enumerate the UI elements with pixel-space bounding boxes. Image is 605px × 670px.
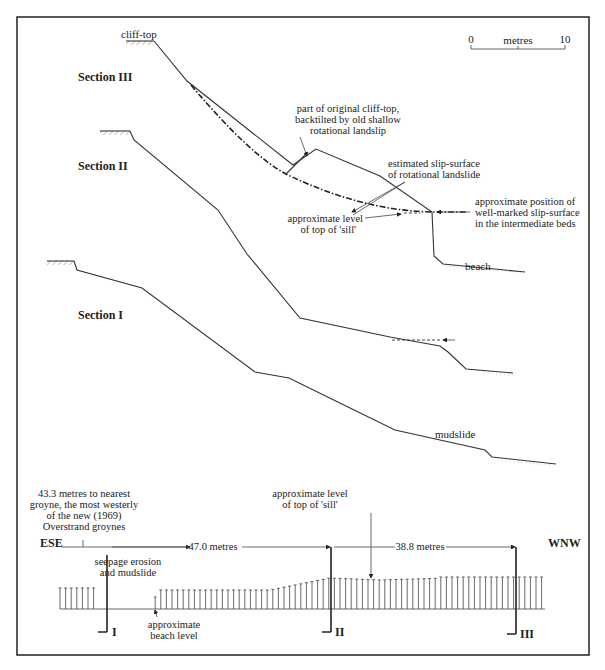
section-i-profile: Section I mudslide [47, 261, 556, 465]
distance-38-label: 38.8 metres [396, 541, 445, 552]
cliff-top-hatch [126, 41, 154, 45]
cliff-top-label: cliff-top [121, 28, 157, 40]
section-iii-profile: cliff-top Section III beach [78, 28, 525, 272]
section-iii-marker: III [520, 627, 534, 641]
svg-text:groyne, the most westerly: groyne, the most westerly [30, 499, 139, 510]
svg-text:approximate: approximate [148, 619, 201, 630]
svg-text:43.3 metres to nearest: 43.3 metres to nearest [38, 488, 130, 499]
svg-text:beach level: beach level [150, 630, 198, 641]
section-ii-marker: II [335, 625, 345, 639]
section-ii-label: Section II [78, 159, 128, 173]
svg-text:approximate level: approximate level [272, 488, 348, 499]
section-i-marker: I [112, 625, 117, 639]
svg-text:and mudslide: and mudslide [100, 567, 157, 578]
annotation-backtilted: part of original cliff-top, backtilted b… [295, 103, 401, 156]
section-i-label: Section I [78, 308, 123, 322]
svg-text:of rotational landslide: of rotational landslide [388, 169, 480, 180]
ese-direction-label: ESE [40, 536, 63, 550]
section-iii-label: Section III [78, 70, 133, 84]
svg-text:part of original cliff-top,: part of original cliff-top, [297, 103, 399, 114]
scale-start: 0 [468, 33, 474, 45]
scale-bar: 0 metres 10 [468, 33, 571, 49]
svg-text:of top of 'sill': of top of 'sill' [282, 499, 338, 510]
svg-text:well-marked slip-surface: well-marked slip-surface [475, 207, 580, 218]
svg-text:approximate level: approximate level [287, 213, 363, 224]
wnw-direction-label: WNW [548, 536, 581, 550]
beach-label: beach [465, 260, 491, 272]
svg-text:Overstrand groynes: Overstrand groynes [43, 521, 126, 532]
annotation-sill-level: approximate level of top of 'sill' [287, 213, 401, 235]
distance-47-label: 47.0 metres [189, 541, 238, 552]
plan-view: 43.3 metres to nearest groyne, the most … [30, 488, 581, 641]
svg-text:in the intermediate beds: in the intermediate beds [475, 218, 576, 229]
svg-text:rotational landslip: rotational landslip [310, 125, 386, 136]
annotation-slip-surface: estimated slip-surface of rotational lan… [352, 158, 480, 215]
svg-text:backtilted by old shallow: backtilted by old shallow [295, 114, 401, 125]
landslide-cross-section-diagram: 0 metres 10 cliff-top Section III beach … [0, 0, 605, 670]
scale-end: 10 [560, 33, 572, 45]
beach-profile-ticks [59, 577, 544, 609]
annotation-well-marked-slip: approximate position of well-marked slip… [437, 196, 580, 229]
mudslide-label: mudslide [435, 428, 475, 440]
svg-text:estimated slip-surface: estimated slip-surface [388, 158, 480, 169]
svg-text:approximate position of: approximate position of [475, 196, 576, 207]
svg-text:of top of 'sill': of top of 'sill' [301, 224, 357, 235]
scale-unit: metres [503, 34, 532, 46]
svg-text:seepage erosion: seepage erosion [95, 556, 163, 567]
